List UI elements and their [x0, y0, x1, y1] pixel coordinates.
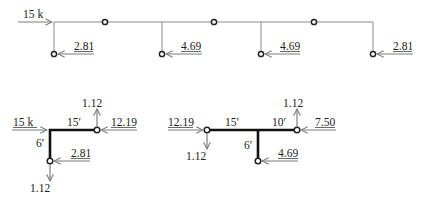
support-pin-icon	[370, 51, 375, 56]
length-label: 15′	[225, 116, 239, 128]
force-label: 1.12	[82, 97, 102, 109]
length-label: 15′	[67, 116, 81, 128]
reaction-label: 4.69	[280, 40, 300, 52]
force-label: 7.50	[315, 116, 335, 128]
hinge-icon	[94, 127, 100, 133]
hinge-icon	[294, 127, 300, 133]
load-label: 15 k	[13, 116, 33, 128]
top-frame: 15 k 2.81 4.69 4.69 2.81	[18, 8, 413, 57]
force-label: 1.12	[186, 150, 206, 162]
hinge-icon	[211, 19, 216, 24]
height-label: 6′	[36, 137, 44, 149]
reaction-label: 2.81	[74, 40, 94, 52]
support-pin-icon	[51, 51, 56, 56]
free-body-left: 15 k 15′ 6′ 1.12 12.19 2.81 1.12	[12, 97, 137, 194]
support-pin-icon	[159, 51, 164, 56]
free-body-right: 12.19 1.12 15′ 10′ 6′ 1.12 7.50 4.69	[168, 97, 336, 164]
force-label: 2.81	[71, 147, 91, 159]
force-label: 12.19	[168, 116, 194, 128]
force-label: 12.19	[111, 116, 137, 128]
support-pin-icon	[255, 158, 261, 164]
hinge-icon	[311, 19, 316, 24]
force-label: 1.12	[30, 182, 50, 194]
applied-load-label: 15 k	[23, 8, 43, 20]
reaction-label: 4.69	[181, 40, 201, 52]
hinge-icon	[102, 19, 107, 24]
hinge-icon	[204, 127, 210, 133]
support-pin-icon	[258, 51, 263, 56]
length-label: 10′	[272, 116, 286, 128]
reaction-label: 2.81	[393, 40, 413, 52]
frame-diagram: 15 k 2.81 4.69 4.69 2.81 15 k 15′ 6′ 1.1…	[0, 0, 424, 201]
height-label: 6′	[244, 139, 252, 151]
force-label: 4.69	[278, 147, 298, 159]
support-pin-icon	[47, 158, 53, 164]
force-label: 1.12	[283, 97, 303, 109]
